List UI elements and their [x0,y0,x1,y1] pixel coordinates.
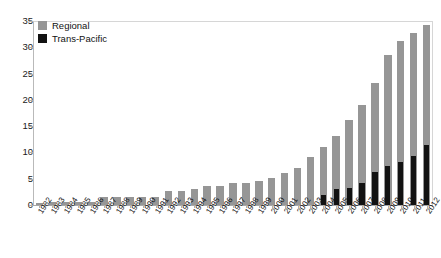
bar-group [371,21,378,205]
bar-group [49,21,56,205]
bar-group [281,21,288,205]
bar-group [358,21,365,205]
bar-group [152,21,159,205]
bar-group [255,21,262,205]
bar-group [74,21,81,205]
legend-label: Trans-Pacific [52,34,107,44]
bar-group [139,21,146,205]
y-axis: 05101520253035 [0,0,33,258]
bars-layer [33,21,433,205]
bar-group [242,21,249,205]
bar-trans-pacific [424,145,429,205]
bar-group [126,21,133,205]
legend-item: Regional [38,20,107,31]
bar-group [345,21,352,205]
legend-swatch-icon [38,34,47,43]
bar-group [307,21,314,205]
bar-group [165,21,172,205]
bar-group [320,21,327,205]
bar-group [410,21,417,205]
bar-group [384,21,391,205]
x-axis: 1982198319841985198619871988198919901991… [33,205,433,258]
bar-group [268,21,275,205]
bar-group [36,21,43,205]
legend-item: Trans-Pacific [38,33,107,44]
bar-group [178,21,185,205]
bar-group [294,21,301,205]
bar-group [203,21,210,205]
bar-group [191,21,198,205]
bar-group [62,21,69,205]
legend-swatch-icon [38,21,47,30]
bar-group [216,21,223,205]
bar-group [113,21,120,205]
chart-legend: RegionalTrans-Pacific [38,20,107,44]
bar-group [423,21,430,205]
bar-group [397,21,404,205]
bar-group [332,21,339,205]
legend-label: Regional [52,21,90,31]
bar-group [229,21,236,205]
bar-group [100,21,107,205]
bar-group [87,21,94,205]
